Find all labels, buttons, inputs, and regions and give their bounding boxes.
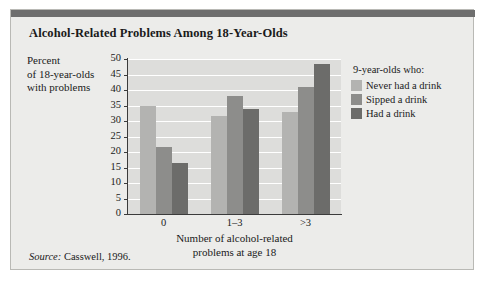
- y-tick-mark: [124, 214, 127, 215]
- bar: [282, 112, 298, 214]
- legend-swatch-icon: [351, 80, 362, 91]
- y-tick-mark: [124, 168, 127, 169]
- legend: 9-year-olds who: Never had a drink Sippe…: [351, 64, 442, 120]
- y-tick-mark: [124, 75, 127, 76]
- gridline: [128, 75, 341, 76]
- y-tick-label: 45: [97, 68, 121, 79]
- y-tick-label: 20: [97, 145, 121, 156]
- bar: [156, 147, 172, 214]
- y-tick-label: 30: [97, 114, 121, 125]
- x-tick-label: >3: [276, 217, 336, 228]
- y-tick-mark: [124, 152, 127, 153]
- y-tick-label: 5: [97, 192, 121, 203]
- figure-panel: Alcohol-Related Problems Among 18-Year-O…: [10, 9, 474, 270]
- plot-area: [128, 59, 341, 214]
- legend-swatch-icon: [351, 108, 362, 119]
- x-tick-label: 1–3: [205, 217, 265, 228]
- source-text: Casswell, 1996.: [61, 251, 130, 262]
- y-tick-label: 25: [97, 130, 121, 141]
- bar: [314, 64, 330, 214]
- chart-title: Alcohol-Related Problems Among 18-Year-O…: [29, 26, 288, 41]
- y-tick-mark: [124, 183, 127, 184]
- y-tick-label: 15: [97, 161, 121, 172]
- legend-title: 9-year-olds who:: [351, 64, 442, 75]
- x-axis-label: Number of alcohol-related problems at ag…: [128, 232, 341, 259]
- y-tick-label: 10: [97, 176, 121, 187]
- y-tick-mark: [124, 121, 127, 122]
- bar: [298, 87, 314, 214]
- x-tick-label: 0: [134, 217, 194, 228]
- y-tick-label: 40: [97, 83, 121, 94]
- legend-item-label: Sipped a drink: [366, 94, 427, 105]
- y-tick-mark: [124, 199, 127, 200]
- x-axis-label-line-2: problems at age 18: [128, 246, 341, 260]
- legend-item: Sipped a drink: [351, 92, 442, 106]
- legend-item-label: Never had a drink: [366, 80, 442, 91]
- panel-top-rule: [11, 10, 475, 17]
- source-note: Source: Casswell, 1996.: [29, 251, 131, 262]
- legend-swatch-icon: [351, 94, 362, 105]
- bar: [227, 96, 243, 214]
- bar: [140, 106, 156, 215]
- legend-item-label: Had a drink: [366, 108, 416, 119]
- y-tick-mark: [124, 59, 127, 60]
- gridline: [128, 59, 341, 60]
- x-axis-line: [127, 214, 342, 215]
- bar: [243, 109, 259, 214]
- legend-item: Had a drink: [351, 106, 442, 120]
- source-label: Source:: [29, 251, 61, 262]
- x-axis-label-line-1: Number of alcohol-related: [128, 232, 341, 246]
- y-tick-mark: [124, 90, 127, 91]
- y-tick-mark: [124, 106, 127, 107]
- y-tick-mark: [124, 137, 127, 138]
- y-tick-label: 50: [97, 52, 121, 63]
- y-tick-label: 35: [97, 99, 121, 110]
- legend-item: Never had a drink: [351, 78, 442, 92]
- y-tick-label: 0: [97, 207, 121, 218]
- bar: [172, 163, 188, 214]
- y-axis-line: [127, 58, 128, 215]
- bar: [211, 116, 227, 214]
